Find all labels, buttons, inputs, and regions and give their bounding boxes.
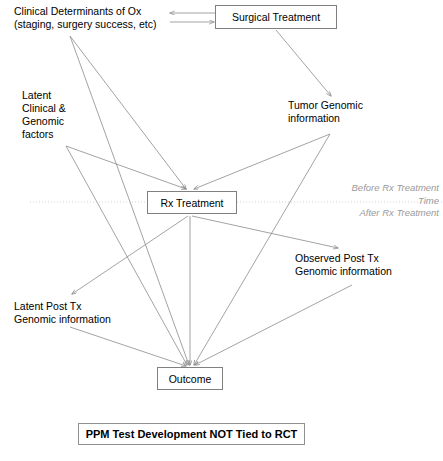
node-outcome[interactable]: Outcome bbox=[157, 367, 223, 390]
time-legend-after: After Rx Treatment bbox=[313, 207, 439, 219]
node-clinical-determinants: Clinical Determinants of Ox (staging, su… bbox=[14, 5, 190, 31]
time-legend-axis-label: Time bbox=[313, 195, 439, 207]
edge-rx-treatment-to-observed-post-tx bbox=[192, 216, 338, 248]
edge-tumor-genomic-to-outcome bbox=[194, 134, 330, 365]
time-legend-before: Before Rx Treatment bbox=[313, 182, 439, 194]
node-observed-post-tx: Observed Post Tx Genomic information bbox=[295, 252, 425, 278]
diagram-canvas: Clinical Determinants of Ox (staging, su… bbox=[0, 0, 443, 461]
banner-ppm-test-development: PPM Test Development NOT Tied to RCT bbox=[78, 423, 305, 445]
edge-surgical-treatment-to-tumor-genomic bbox=[276, 30, 331, 96]
node-latent-clinical-genomic: Latent Clinical & Genomic factors bbox=[22, 89, 94, 141]
edge-latent-post-tx-to-outcome bbox=[70, 327, 186, 366]
edge-tumor-genomic-to-rx-treatment bbox=[194, 134, 330, 189]
edge-observed-post-tx-to-outcome bbox=[195, 285, 352, 365]
node-tumor-genomic: Tumor Genomic information bbox=[288, 99, 390, 125]
node-rx-treatment[interactable]: Rx Treatment bbox=[147, 191, 237, 214]
node-surgical-treatment[interactable]: Surgical Treatment bbox=[215, 5, 337, 29]
edge-rx-treatment-to-latent-post-tx bbox=[72, 216, 188, 294]
edge-latent-clinical-genomic-to-rx-treatment bbox=[66, 146, 186, 189]
node-latent-post-tx: Latent Post Tx Genomic information bbox=[14, 300, 144, 326]
edge-layer bbox=[0, 0, 443, 461]
